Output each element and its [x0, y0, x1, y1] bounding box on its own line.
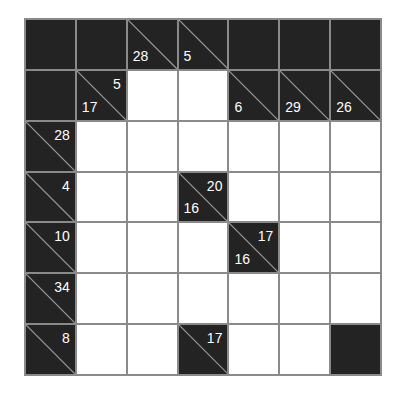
- blocked-cell: [331, 20, 380, 69]
- clue-cell-r1-c1: 517: [77, 71, 126, 120]
- entry-cell-r2-c4[interactable]: [229, 122, 278, 171]
- across-clue-sum: 17: [258, 229, 274, 243]
- entry-cell-r3-c1[interactable]: [77, 173, 126, 222]
- blocked-cell: [26, 20, 75, 69]
- kakuro-board: 28551762926284201610171634817: [24, 18, 382, 376]
- entry-cell-r2-c5[interactable]: [280, 122, 329, 171]
- clue-cell-r0-c2: 28: [128, 20, 177, 69]
- clue-cell-r3-c3: 2016: [179, 173, 228, 222]
- clue-cell-r4-c4: 1716: [229, 223, 278, 272]
- down-clue-sum: 5: [184, 49, 192, 63]
- blocked-cell: [280, 20, 329, 69]
- entry-cell-r1-c3[interactable]: [179, 71, 228, 120]
- entry-cell-r2-c6[interactable]: [331, 122, 380, 171]
- clue-cell-r6-c3: 17: [179, 325, 228, 374]
- down-clue-sum: 16: [234, 252, 250, 266]
- down-clue-sum: 29: [285, 100, 301, 114]
- entry-cell-r5-c1[interactable]: [77, 274, 126, 323]
- entry-cell-r6-c4[interactable]: [229, 325, 278, 374]
- blocked-cell: [77, 20, 126, 69]
- entry-cell-r6-c2[interactable]: [128, 325, 177, 374]
- clue-cell-r5-c0: 34: [26, 274, 75, 323]
- entry-cell-r5-c6[interactable]: [331, 274, 380, 323]
- entry-cell-r4-c2[interactable]: [128, 223, 177, 272]
- entry-cell-r1-c2[interactable]: [128, 71, 177, 120]
- entry-cell-r3-c2[interactable]: [128, 173, 177, 222]
- across-clue-sum: 5: [113, 77, 121, 91]
- clue-cell-r4-c0: 10: [26, 223, 75, 272]
- across-clue-sum: 34: [54, 280, 70, 294]
- down-clue-sum: 16: [184, 201, 200, 215]
- entry-cell-r3-c4[interactable]: [229, 173, 278, 222]
- clue-cell-r3-c0: 4: [26, 173, 75, 222]
- down-clue-sum: 26: [336, 100, 352, 114]
- entry-cell-r4-c5[interactable]: [280, 223, 329, 272]
- entry-cell-r2-c2[interactable]: [128, 122, 177, 171]
- blocked-cell: [331, 325, 380, 374]
- entry-cell-r5-c2[interactable]: [128, 274, 177, 323]
- entry-cell-r5-c5[interactable]: [280, 274, 329, 323]
- clue-cell-r0-c3: 5: [179, 20, 228, 69]
- entry-cell-r6-c5[interactable]: [280, 325, 329, 374]
- clue-cell-r1-c5: 29: [280, 71, 329, 120]
- across-clue-sum: 28: [54, 128, 70, 142]
- blocked-cell: [229, 20, 278, 69]
- clue-cell-r2-c0: 28: [26, 122, 75, 171]
- entry-cell-r2-c1[interactable]: [77, 122, 126, 171]
- clue-cell-r1-c4: 6: [229, 71, 278, 120]
- across-clue-sum: 4: [62, 179, 70, 193]
- down-clue-sum: 28: [133, 49, 149, 63]
- entry-cell-r4-c6[interactable]: [331, 223, 380, 272]
- across-clue-sum: 10: [54, 229, 70, 243]
- across-clue-sum: 20: [207, 179, 223, 193]
- entry-cell-r6-c1[interactable]: [77, 325, 126, 374]
- entry-cell-r3-c5[interactable]: [280, 173, 329, 222]
- entry-cell-r2-c3[interactable]: [179, 122, 228, 171]
- down-clue-sum: 6: [234, 100, 242, 114]
- entry-cell-r3-c6[interactable]: [331, 173, 380, 222]
- entry-cell-r5-c3[interactable]: [179, 274, 228, 323]
- across-clue-sum: 8: [62, 331, 70, 345]
- entry-cell-r4-c1[interactable]: [77, 223, 126, 272]
- entry-cell-r5-c4[interactable]: [229, 274, 278, 323]
- blocked-cell: [26, 71, 75, 120]
- clue-cell-r6-c0: 8: [26, 325, 75, 374]
- across-clue-sum: 17: [207, 331, 223, 345]
- clue-cell-r1-c6: 26: [331, 71, 380, 120]
- down-clue-sum: 17: [82, 100, 98, 114]
- entry-cell-r4-c3[interactable]: [179, 223, 228, 272]
